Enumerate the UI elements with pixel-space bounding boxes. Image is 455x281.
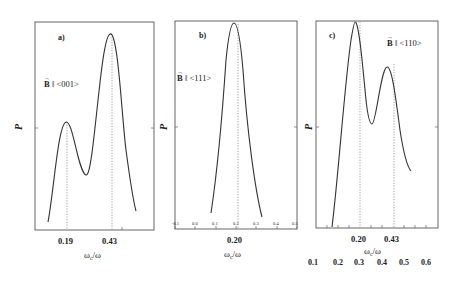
- inner-tick-label: 0.5: [292, 221, 298, 226]
- panel-c-frame: [316, 21, 438, 228]
- bottom-scale-label: 0.2: [333, 258, 343, 267]
- panel-a-frame: [35, 22, 154, 230]
- panel-c-xtick-020: 0.20: [351, 234, 366, 244]
- figure: a) B → ‖ <001> 0.19 0.43 ωc/ω P b) → B: [0, 0, 455, 281]
- inner-tick-label: 0.0: [192, 221, 198, 226]
- panel-a-orientation: B → ‖ <001>: [44, 75, 79, 89]
- panel-c: c) → B ‖ <110> 0.20 0.43 ωc/ω P 0.1 0.2 …: [303, 21, 438, 267]
- panel-c-xlabel: ωc/ω: [364, 246, 381, 257]
- panel-b: b) → B ‖ <111> -0.1 0.0 0.1 0.2 0.3 0.4 …: [158, 21, 298, 260]
- inner-tick-label: -0.1: [172, 221, 179, 226]
- bottom-scale-label: 0.3: [354, 258, 364, 267]
- vector-arrow-icon: →: [44, 75, 50, 81]
- panel-a: a) B → ‖ <001> 0.19 0.43 ωc/ω P: [13, 22, 154, 261]
- panel-b-xlabel: ωc/ω: [224, 249, 241, 260]
- panel-b-orientation-text: ‖ <111>: [185, 73, 211, 83]
- panel-b-curve: [211, 23, 262, 217]
- panel-b-frame: [175, 21, 297, 229]
- panel-c-xtick-043: 0.43: [384, 234, 399, 244]
- panel-a-xtick-043: 0.43: [102, 236, 117, 246]
- panel-c-curve: [332, 22, 411, 227]
- panel-c-bottom-scale: 0.1 0.2 0.3 0.4 0.5 0.6: [308, 258, 431, 267]
- bottom-scale-label: 0.4: [377, 258, 387, 267]
- panel-c-orientation: → B ‖ <110>: [387, 34, 422, 48]
- panel-c-ylabel: P: [303, 123, 314, 130]
- panel-a-ylabel: P: [13, 123, 24, 130]
- bottom-scale-label: 0.5: [399, 258, 409, 267]
- panel-a-orientation-text: ‖ <001>: [52, 79, 79, 89]
- inner-tick-label: 0.3: [253, 221, 259, 226]
- panel-a-curve: [48, 34, 136, 222]
- field-b-symbol: B: [177, 73, 183, 83]
- panel-b-xtick-020: 0.20: [227, 235, 242, 245]
- panel-b-ylabel: P: [158, 123, 169, 130]
- panel-b-label: b): [199, 31, 206, 40]
- bottom-scale-label: 0.6: [421, 258, 431, 267]
- inner-tick-label: 0.2: [233, 221, 239, 226]
- panel-a-xlabel: ωc/ω: [84, 250, 101, 261]
- panel-c-orientation-text: ‖ <110>: [395, 38, 422, 48]
- panel-a-xtick-019: 0.19: [58, 236, 73, 246]
- inner-tick-label: 0.1: [212, 221, 218, 226]
- panel-b-inner-ticklabels: -0.1 0.0 0.1 0.2 0.3 0.4 0.5: [172, 221, 298, 226]
- field-b-symbol: B: [387, 38, 393, 48]
- panel-b-orientation: → B ‖ <111>: [177, 69, 211, 83]
- inner-tick-label: 0.4: [273, 221, 279, 226]
- panel-a-label: a): [58, 33, 65, 42]
- panel-c-label: c): [329, 31, 336, 40]
- bottom-scale-label: 0.1: [308, 258, 318, 267]
